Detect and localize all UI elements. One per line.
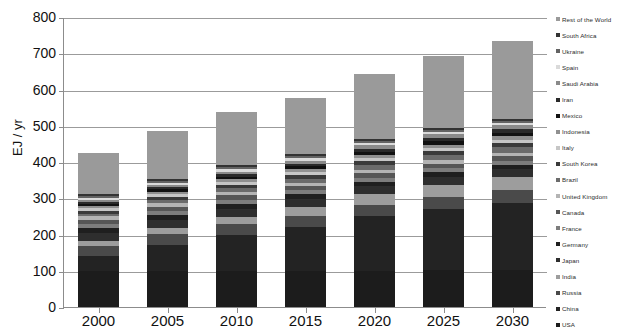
legend-swatch-icon <box>556 130 560 134</box>
legend-item-japan[interactable]: Japan <box>556 252 634 268</box>
legend-label: South Korea <box>562 160 598 167</box>
legend-swatch-icon <box>556 242 560 246</box>
bar-segment <box>492 41 533 119</box>
legend-swatch-icon <box>556 33 560 37</box>
legend-item-canada[interactable]: Canada <box>556 204 634 220</box>
legend-item-italy[interactable]: Italy <box>556 140 634 156</box>
bar-2000[interactable] <box>78 153 119 307</box>
legend-item-united-kingdom[interactable]: United Kingdom <box>556 188 634 204</box>
y-tick-mark-400 <box>59 163 64 164</box>
legend-item-china[interactable]: China <box>556 301 634 317</box>
x-tick-label-2010: 2010 <box>197 312 277 329</box>
legend-label: Japan <box>562 257 579 264</box>
legend-item-germany[interactable]: Germany <box>556 236 634 252</box>
bar-segment <box>78 233 119 241</box>
legend-swatch-icon <box>556 81 560 85</box>
legend-swatch-icon <box>556 98 560 102</box>
bar-segment <box>216 235 257 271</box>
legend-item-russia[interactable]: Russia <box>556 285 634 301</box>
y-tick-label-200: 200 <box>12 229 56 241</box>
legend-item-france[interactable]: France <box>556 220 634 236</box>
bar-2030[interactable] <box>492 41 533 307</box>
legend-item-south-korea[interactable]: South Korea <box>556 156 634 172</box>
legend-item-iran[interactable]: Iran <box>556 91 634 107</box>
y-tick-mark-500 <box>59 127 64 128</box>
legend-label: Canada <box>562 209 584 216</box>
legend-item-indonesia[interactable]: Indonesia <box>556 124 634 140</box>
legend-label: Indonesia <box>562 128 590 135</box>
legend-swatch-icon <box>556 275 560 279</box>
bar-segment <box>147 234 188 245</box>
legend-label: Rest of the World <box>562 16 611 23</box>
bar-segment <box>147 245 188 271</box>
y-tick-label-100: 100 <box>12 265 56 277</box>
legend-item-usa[interactable]: USA <box>556 317 634 333</box>
legend-item-rest-of-the-world[interactable]: Rest of the World <box>556 11 634 27</box>
bar-segment <box>354 194 395 205</box>
gridline-600 <box>64 91 547 92</box>
bar-2015[interactable] <box>285 98 326 307</box>
legend-item-ukraine[interactable]: Ukraine <box>556 43 634 59</box>
gridline-700 <box>64 54 547 55</box>
legend-swatch-icon <box>556 210 560 214</box>
bar-segment <box>354 205 395 217</box>
bar-segment <box>285 207 326 216</box>
bar-2005[interactable] <box>147 131 188 307</box>
y-tick-mark-800 <box>59 18 64 19</box>
legend-label: South Africa <box>562 32 597 39</box>
x-tick-label-2020: 2020 <box>335 312 415 329</box>
legend-label: USA <box>562 321 575 328</box>
legend-label: Ukraine <box>562 48 584 55</box>
bar-segment <box>492 190 533 202</box>
bar-segment <box>492 203 533 270</box>
chart-root: EJ / yr 0100200300400500600700800 200020… <box>0 0 634 333</box>
legend-item-india[interactable]: India <box>556 269 634 285</box>
legend-item-brazil[interactable]: Brazil <box>556 172 634 188</box>
x-tick-label-2030: 2030 <box>473 312 553 329</box>
legend-swatch-icon <box>556 162 560 166</box>
legend-swatch-icon <box>556 114 560 118</box>
gridline-800 <box>64 18 547 19</box>
legend-swatch-icon <box>556 146 560 150</box>
y-tick-mark-200 <box>59 236 64 237</box>
bar-segment <box>285 98 326 154</box>
legend-label: Italy <box>562 144 574 151</box>
bar-segment <box>216 209 257 217</box>
x-tick-label-2005: 2005 <box>128 312 208 329</box>
bar-segment <box>147 131 188 179</box>
y-tick-mark-100 <box>59 272 64 273</box>
plot-area: 2000200520102015202020252030 <box>63 18 546 308</box>
legend-swatch-icon <box>556 17 560 21</box>
bar-segment <box>78 271 119 307</box>
bar-segment <box>354 216 395 270</box>
bar-segment <box>354 271 395 307</box>
bar-segment <box>147 220 188 228</box>
legend-item-south-africa[interactable]: South Africa <box>556 27 634 43</box>
legend-label: Russia <box>562 289 582 296</box>
legend-swatch-icon <box>556 65 560 69</box>
y-tick-label-300: 300 <box>12 192 56 204</box>
legend-item-mexico[interactable]: Mexico <box>556 108 634 124</box>
legend-label: Spain <box>562 64 578 71</box>
y-tick-mark-0 <box>59 308 64 309</box>
legend-item-saudi-arabia[interactable]: Saudi Arabia <box>556 75 634 91</box>
y-tick-label-500: 500 <box>12 120 56 132</box>
legend: Rest of the WorldSouth AfricaUkraineSpai… <box>556 11 634 333</box>
legend-label: Iran <box>562 96 573 103</box>
legend-item-spain[interactable]: Spain <box>556 59 634 75</box>
legend-label: India <box>562 273 576 280</box>
bar-segment <box>423 197 464 209</box>
bar-segment <box>492 177 533 191</box>
legend-label: China <box>562 305 579 312</box>
bar-segment <box>423 270 464 307</box>
bar-2025[interactable] <box>423 56 464 307</box>
legend-swatch-icon <box>556 291 560 295</box>
x-tick-label-2025: 2025 <box>404 312 484 329</box>
y-tick-mark-700 <box>59 54 64 55</box>
bar-2020[interactable] <box>354 74 395 307</box>
y-tick-label-800: 800 <box>12 11 56 23</box>
bar-2010[interactable] <box>216 112 257 307</box>
bar-segment <box>78 153 119 194</box>
bar-segment <box>423 177 464 185</box>
bar-segment <box>492 169 533 176</box>
